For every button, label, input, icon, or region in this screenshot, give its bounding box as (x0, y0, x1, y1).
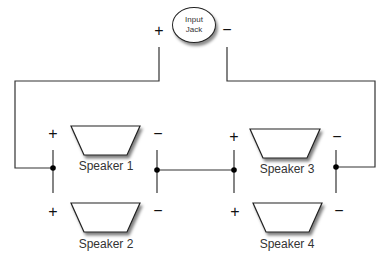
speaker-2-plus: + (48, 204, 57, 220)
speaker-1-label: Speaker 1 (79, 159, 134, 173)
speaker-3-plus: + (229, 129, 238, 145)
speaker-1-icon (71, 126, 140, 155)
junction-dot (333, 164, 339, 170)
speaker-2-icon (71, 203, 140, 232)
speaker-4-minus: − (334, 203, 343, 219)
input-minus-sign: − (222, 22, 231, 38)
input-jack: Input Jack (172, 7, 216, 43)
junction-dot (231, 167, 237, 173)
speaker-4-label: Speaker 4 (260, 237, 315, 251)
speaker-1-minus: − (153, 126, 162, 142)
speaker-2-minus: − (153, 203, 162, 219)
speaker-3-minus: − (332, 129, 341, 145)
speaker-3-icon (250, 129, 320, 158)
speaker-3-label: Speaker 3 (260, 162, 315, 176)
junction-dot (50, 165, 56, 171)
junction-dot (154, 167, 160, 173)
speaker-4-plus: + (230, 204, 239, 220)
speaker-4-icon (253, 203, 322, 232)
speaker-1-plus: + (48, 126, 57, 142)
speaker-2-label: Speaker 2 (79, 237, 134, 251)
input-plus-sign: + (154, 23, 163, 39)
